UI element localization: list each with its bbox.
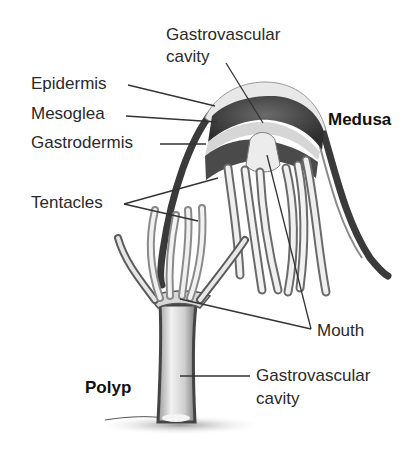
label-mouth: Mouth [317,321,364,341]
label-tentacles: Tentacles [31,193,103,213]
label-gastrovascular-cavity-top-line1: Gastrovascular [166,25,280,45]
cnidarian-diagram: Gastrovascular cavity Epidermis Mesoglea… [0,0,419,455]
label-gastrodermis: Gastrodermis [31,133,133,153]
label-mesoglea: Mesoglea [31,104,105,124]
label-gastrovascular-cavity-top-line2: cavity [166,47,209,67]
label-polyp: Polyp [85,378,131,398]
label-gastrovascular-cavity-bottom-line1: Gastrovascular [256,366,370,386]
label-medusa: Medusa [328,110,391,130]
diagram-illustration [0,0,419,455]
label-gastrovascular-cavity-bottom-line2: cavity [256,389,299,409]
polyp-body [95,208,265,435]
label-epidermis: Epidermis [31,74,107,94]
